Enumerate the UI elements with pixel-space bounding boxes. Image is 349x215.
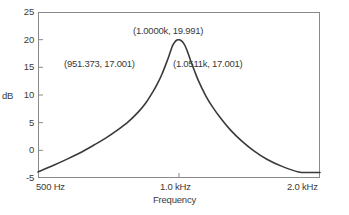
y-tick-label-0: 0 bbox=[16, 145, 34, 155]
y-tick-label-5: 5 bbox=[16, 118, 34, 128]
x-axis-label: Frequency bbox=[0, 194, 349, 205]
y-tick-label-10: 10 bbox=[16, 90, 34, 100]
annotation-left-cursor: (951.373, 17.001) bbox=[64, 58, 135, 69]
x-tick-label-500hz: 500 Hz bbox=[36, 181, 65, 192]
y-tick-label-15: 15 bbox=[16, 62, 34, 72]
annotation-peak-point: (1.0000k, 19.991) bbox=[133, 25, 203, 36]
x-tick-label-2khz: 2.0 kHz bbox=[287, 181, 318, 192]
y-axis-tick-marks bbox=[38, 40, 43, 151]
frequency-response-chart: 25 20 15 10 5 0 -5 dB 500 Hz 1.0 kHz 2.0… bbox=[0, 0, 349, 215]
annotation-right-cursor: (1.0511k, 17.001) bbox=[173, 58, 243, 69]
y-tick-label-25: 25 bbox=[16, 7, 34, 17]
x-tick-label-1khz: 1.0 kHz bbox=[160, 181, 191, 192]
y-tick-label-20: 20 bbox=[16, 35, 34, 45]
y-tick-label-minus-5: -5 bbox=[16, 173, 34, 183]
y-axis-label: dB bbox=[2, 91, 13, 101]
